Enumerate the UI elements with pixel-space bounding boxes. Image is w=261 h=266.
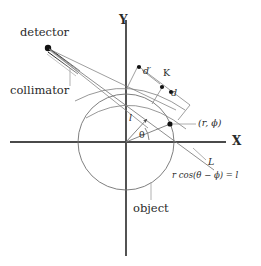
- marker-point-r-phi: [167, 121, 172, 126]
- line-L-leader: [193, 148, 206, 160]
- segment-tick-d-end: [178, 105, 190, 120]
- K-label: K: [163, 68, 170, 78]
- x-axis-label: X: [232, 135, 241, 147]
- line-L-label: L: [208, 157, 214, 167]
- detector-label: detector: [20, 27, 69, 39]
- collimator-label: collimator: [10, 85, 69, 97]
- diagram-vector-layer: [0, 0, 261, 266]
- projection-ray-line-L: [49, 49, 214, 170]
- object-label: object: [133, 203, 169, 215]
- figure-canvas: detector collimator object Y X d′ d K l …: [0, 0, 261, 266]
- point-r-phi-label: (r, ϕ): [198, 118, 221, 128]
- coordinate-axes: [10, 20, 226, 256]
- segment-tick-d-prime-start: [126, 66, 138, 90]
- marker-d-prime-start: [137, 65, 141, 69]
- marker-k-left: [160, 85, 164, 89]
- projection-equation-label: r cos(θ − ϕ) = l: [172, 171, 238, 180]
- d-prime-label: d′: [143, 66, 151, 76]
- collimator-tube: [47, 49, 80, 76]
- l-distance-label: l: [129, 113, 132, 123]
- d-label: d: [171, 88, 177, 98]
- y-axis-label: Y: [119, 14, 128, 26]
- theta-angle-label: θ: [139, 130, 145, 140]
